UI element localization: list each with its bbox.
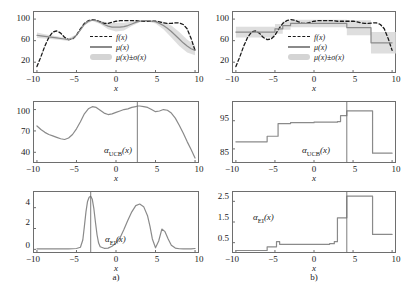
legend-row-mu: μ(x) [288,42,344,52]
solid-line-icon [90,43,112,51]
x-axis-title: x [114,173,118,183]
x-axis-title: x [312,173,316,183]
legend-panel-b: f(x) μ(x) μ(x)±σ(x) [288,32,344,62]
xtick-label: −5 [69,254,79,264]
ytick-label: 70 [5,126,30,136]
xtick-label: 5 [155,254,160,264]
ytick-label: 100 [5,106,30,116]
acquisition-label-ei-a: αEI(x) [105,234,126,246]
xtick-label: 10 [392,74,401,84]
xtick-label: 10 [195,164,204,174]
xtick-label: 5 [353,254,358,264]
xtick-label: 10 [392,254,401,264]
xtick-label: −5 [268,254,278,264]
legend-row-mu: μ(x) [90,42,146,52]
xtick-label: −5 [268,74,278,84]
ytick-label: 100 [204,13,229,23]
arg-x: (x) [264,212,274,222]
acquisition-label-ei-b: αEI(x) [253,212,274,224]
ucb-subscript: UCB [109,150,122,157]
legend-label-f: f(x) [116,33,127,42]
ytick-label: 40 [5,147,30,157]
xtick-label: −10 [26,254,40,264]
legend-label-mu: μ(x) [314,43,327,52]
acquisition-label-ucb-b: αUCB(x) [302,145,330,157]
ytick-label: 60 [204,34,229,44]
arg-x: (x) [116,234,126,244]
shaded-band-icon [288,53,310,61]
legend-row-f: f(x) [90,32,146,42]
ytick-label: 60 [5,34,30,44]
legend-row-band: μ(x)±σ(x) [288,52,344,62]
figure-bayesian-optimization-panels: 100 60 20 −10 −5 0 5 10 x f(x) μ(x) μ(x)… [0,0,411,289]
solid-line-icon [288,43,310,51]
subfigure-label-b: b) [310,272,318,282]
legend-label-f: f(x) [314,33,325,42]
shaded-band-icon [90,53,112,61]
ytick-label: 100 [5,13,30,23]
xtick-label: 10 [195,74,204,84]
xtick-label: 10 [392,164,401,174]
ytick-label: 4 [5,197,30,207]
xtick-label: −5 [69,74,79,84]
xtick-label: −10 [225,254,239,264]
dashed-line-icon [90,33,112,41]
xtick-label: −10 [225,74,239,84]
xtick-label: 10 [195,254,204,264]
ytick-label: 0.5 [204,233,229,243]
xtick-label: −10 [225,164,239,174]
ytick-label: 20 [5,55,30,65]
x-axis-title: x [312,83,316,93]
x-axis-title: x [114,83,118,93]
xtick-label: 5 [155,164,160,174]
ytick-label: 2.5 [204,191,229,201]
ytick-label: 1.5 [204,212,229,222]
legend-row-f: f(x) [288,32,344,42]
dashed-line-icon [288,33,310,41]
legend-row-band: μ(x)±σ(x) [90,52,146,62]
xtick-label: −5 [69,164,79,174]
ytick-label: 20 [204,55,229,65]
ytick-label: 2 [5,217,30,227]
xtick-label: −10 [26,164,40,174]
legend-label-band: μ(x)±σ(x) [116,53,146,62]
arg-x: (x) [122,145,132,155]
ytick-label: 0 [5,240,30,250]
xtick-label: −10 [26,74,40,84]
acquisition-label-ucb-a: αUCB(x) [104,145,132,157]
ytick-label: 95 [204,113,229,123]
legend-label-mu: μ(x) [116,43,129,52]
xtick-label: 5 [353,164,358,174]
subfigure-label-a: a) [113,272,120,282]
xtick-label: −5 [268,164,278,174]
legend-label-band: μ(x)±σ(x) [314,53,344,62]
xtick-label: 5 [155,74,160,84]
arg-x: (x) [320,145,330,155]
ytick-label: 85 [204,147,229,157]
ucb-subscript: UCB [307,150,320,157]
legend-panel-a: f(x) μ(x) μ(x)±σ(x) [90,32,146,62]
xtick-label: 5 [353,74,358,84]
